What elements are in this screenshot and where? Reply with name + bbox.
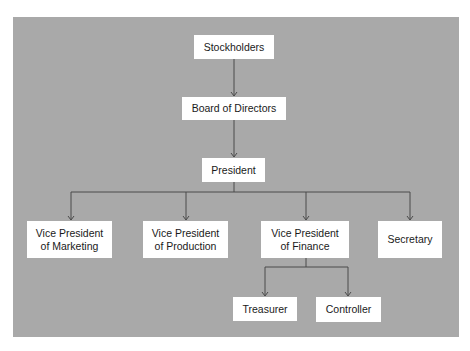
node-vp-production: Vice President of Production — [143, 221, 228, 258]
node-label-line2: of Marketing — [41, 240, 99, 253]
node-label-line2: of Finance — [280, 240, 329, 253]
node-secretary: Secretary — [378, 221, 442, 258]
node-label: Treasurer — [242, 303, 287, 316]
node-label: President — [211, 164, 255, 177]
node-label-line2: of Production — [155, 240, 217, 253]
node-controller: Controller — [316, 297, 381, 322]
node-president: President — [202, 158, 265, 182]
node-label: Stockholders — [204, 41, 265, 54]
node-treasurer: Treasurer — [233, 297, 297, 321]
node-label-line1: Vice President — [36, 227, 104, 240]
node-vp-finance: Vice President of Finance — [261, 221, 349, 258]
node-label-line1: Vice President — [152, 227, 220, 240]
node-label: Board of Directors — [192, 102, 277, 115]
node-board-of-directors: Board of Directors — [182, 97, 286, 120]
node-label-line1: Vice President — [271, 227, 339, 240]
node-label: Secretary — [388, 233, 433, 246]
node-stockholders: Stockholders — [194, 35, 274, 59]
node-label: Controller — [326, 303, 372, 316]
node-vp-marketing: Vice President of Marketing — [27, 221, 112, 258]
